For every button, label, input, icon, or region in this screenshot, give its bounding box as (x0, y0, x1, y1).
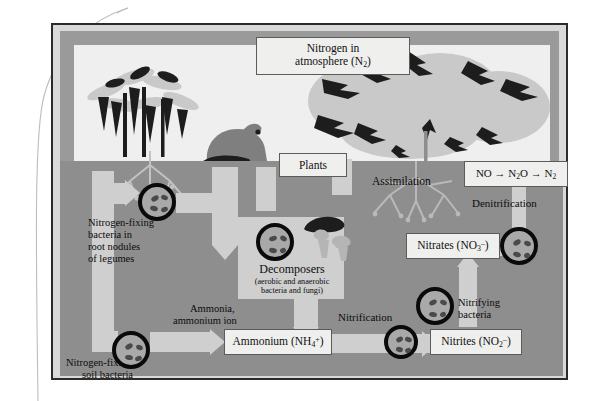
arrow-soilbact-to-ammonium-shaft (150, 332, 210, 352)
denitrification-gas-box: NO → N2O → N2 (464, 161, 568, 187)
soil-bacteria-line2: soil bacteria (82, 369, 133, 381)
decomposer-bacteria-icon (256, 223, 294, 261)
nitrates-text-post: ) (485, 239, 489, 251)
plants-label: Plants (299, 159, 327, 172)
nitrifying-bacteria-line1: Nitrifying (458, 297, 500, 309)
figure-frame: Nitrogen in atmosphere (N2) Plants Assim… (51, 23, 568, 380)
ammonia-label-line1: Ammonia, (190, 303, 235, 315)
atmosphere-line1: Nitrogen in (307, 42, 360, 54)
root-nodule-bacteria-icon (138, 183, 176, 221)
decomposers-subtitle-line2: bacteria and fungi) (240, 286, 344, 296)
gas-arrow-1-icon: → (495, 167, 506, 179)
nitrification-label: Nitrification (338, 311, 392, 324)
figure-page: Nitrogen in atmosphere (N2) Plants Assim… (0, 0, 591, 401)
nitrites-box: Nitrites (NO2–) (430, 329, 522, 355)
ammonium-text-pre: Ammonium (NH (232, 335, 311, 347)
arrow-soilbact-to-ammonium-head (210, 329, 225, 355)
ammonium-text-post: ) (320, 335, 324, 347)
denitrifying-bacteria-icon (500, 227, 538, 265)
nitrates-text-pre: Nitrates (NO (417, 239, 477, 251)
arrow-to-root-nodule-shaft (92, 183, 125, 204)
nitrites-text-post: ) (507, 335, 511, 347)
figure-canvas: Nitrogen in atmosphere (N2) Plants Assim… (60, 31, 559, 372)
gas-arrow-2-icon: → (531, 167, 542, 179)
soil-bacteria-icon (112, 331, 150, 369)
arrow-assimilation-shaft (256, 167, 276, 211)
gas-n2-subscript: 2 (552, 172, 556, 181)
nitrification-bacteria-icon (384, 325, 418, 359)
ammonia-label-line2: ammonium ion (173, 315, 237, 327)
nitrifying-bacteria-icon (416, 287, 454, 325)
assimilation-label: Assimilation (372, 175, 431, 188)
root-nodule-bacteria-line2: bacteria in (88, 229, 132, 241)
decomposers-title: Decomposers (248, 263, 336, 277)
nitrites-text-pre: Nitrites (NO (441, 335, 499, 347)
atmosphere-box: Nitrogen in atmosphere (N2) (256, 37, 410, 75)
root-nodule-bacteria-line3: root nodules (88, 241, 140, 253)
arrow-plants-down-shaft (212, 167, 238, 245)
animal-illustration (201, 115, 271, 163)
root-nodule-bacteria-line1: Nitrogen-fixing (88, 217, 154, 229)
figure-mat: Nitrogen in atmosphere (N2) Plants Assim… (53, 25, 566, 378)
root-nodule-bacteria-line4: of legumes (88, 253, 134, 265)
plants-box: Plants (279, 153, 347, 177)
denitrification-label: Denitrification (472, 197, 537, 210)
mushroom-illustration (298, 213, 358, 263)
nitrifying-bacteria-line2: bacteria (458, 309, 491, 321)
arrow-plants-down-head (212, 245, 238, 260)
nitrates-box: Nitrates (NO3–) (406, 233, 500, 259)
gas-n2o-post: O (520, 167, 528, 179)
ammonium-box: Ammonium (NH4+) (224, 329, 332, 355)
atmosphere-line2-post: ) (367, 55, 371, 67)
atmosphere-line2-pre: atmosphere (N (295, 55, 363, 67)
gas-no-label: NO (476, 167, 492, 179)
tree-roots-illustration (360, 161, 470, 223)
